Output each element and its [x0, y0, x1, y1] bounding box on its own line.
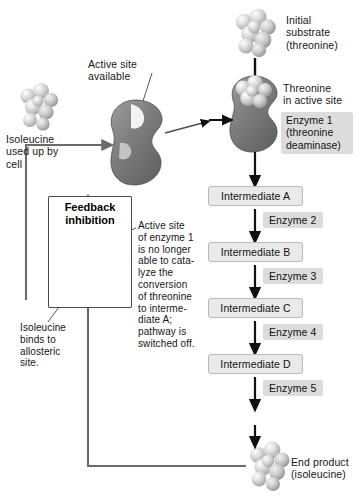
- pathway-tag-enzyme-4: Enzyme 4: [263, 324, 323, 340]
- pathway-tag-enzyme-3: Enzyme 3: [263, 268, 323, 284]
- label-enzyme-1: Enzyme 1 (threonine deaminase): [281, 112, 353, 154]
- label-active-site-blocked: Active site of enzyme 1 is no longer abl…: [138, 220, 214, 350]
- label-feedback-inhibition: Feedback inhibition: [48, 201, 132, 226]
- pathway-box-intermediate-a: Intermediate A: [208, 186, 303, 206]
- label-isoleucine-used-up: Isoleucine used up by cell: [6, 133, 58, 170]
- pathway-box-intermediate-b: Intermediate B: [208, 242, 303, 262]
- label-end-product: End product (isoleucine): [291, 456, 349, 481]
- label-active-site-available: Active site available: [88, 58, 137, 83]
- molecule-isoleucine-used: [20, 83, 58, 131]
- label-initial-substrate: Initial substrate (threonine): [286, 14, 338, 51]
- molecule-initial-substrate: [236, 8, 276, 57]
- label-threonine-in-active-site: Threonine in active site: [283, 82, 342, 107]
- label-isoleucine-binds-allosteric: Isoleucine binds to allosteric site.: [20, 322, 66, 369]
- pathway-box-intermediate-c: Intermediate C: [208, 298, 303, 318]
- pathway-tag-enzyme-2: Enzyme 2: [263, 212, 323, 228]
- diagram-canvas: Initial substrate (threonine) Threonine …: [0, 0, 356, 499]
- pathway-tag-enzyme-5: Enzyme 5: [263, 380, 323, 396]
- enzyme-active-with-substrate: [230, 75, 277, 152]
- enzyme-free-active-site: [111, 100, 162, 185]
- pathway-box-intermediate-d: Intermediate D: [208, 354, 303, 374]
- molecule-end-product: [250, 442, 290, 491]
